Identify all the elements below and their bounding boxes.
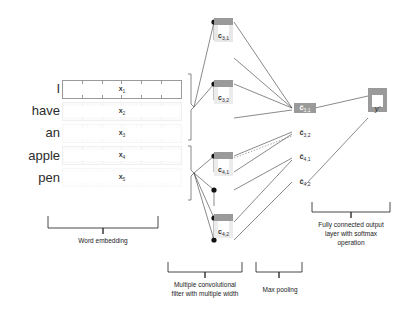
input-word-list: I have an apple pen xyxy=(8,78,60,189)
caption-output-line2: layer with softmax xyxy=(306,229,396,238)
embedding-row-label: x5 xyxy=(62,171,182,183)
input-word: pen xyxy=(8,167,60,189)
cnn-text-architecture-diagram: I have an apple pen x1 x2 x3 xyxy=(0,0,405,318)
conv-feature-block: c4,1 xyxy=(214,152,233,176)
caption-output-layer: Fully connected output layer with softma… xyxy=(306,220,396,247)
conv-feature-block: c4,2 xyxy=(214,214,233,238)
caption-output-line1: Fully connected output xyxy=(306,220,396,229)
conv-block-label: c4,1 xyxy=(210,165,237,175)
conv-block-cap xyxy=(214,80,233,87)
caption-word-embedding: Word embedding xyxy=(58,236,148,245)
conv-block-cap xyxy=(214,18,233,25)
caption-convolution-line1: Multiple convolutional xyxy=(160,280,250,289)
embedding-row-label: x1 xyxy=(62,83,182,95)
pooled-value: ĉ3,1 xyxy=(294,103,316,113)
caption-convolution-line2: filter with multiple width xyxy=(160,289,250,298)
input-word: have xyxy=(8,100,60,122)
pooled-value: ĉ4,2 xyxy=(294,177,316,187)
caption-max-pooling: Max pooling xyxy=(254,285,306,294)
embedding-row-label: x2 xyxy=(62,105,182,117)
embedding-row-label: x3 xyxy=(62,127,182,139)
conv-feature-block: c3,2 xyxy=(214,80,233,104)
caption-convolution: Multiple convolutional filter with multi… xyxy=(160,280,250,298)
conv-block-label: c3,2 xyxy=(210,93,237,103)
input-word: an xyxy=(8,122,60,144)
output-node-label: y' xyxy=(364,104,391,113)
conv-block-cap xyxy=(214,214,233,221)
input-word: apple xyxy=(8,145,60,167)
conv-block-label: c4,2 xyxy=(210,227,237,237)
caption-output-line3: operation xyxy=(306,238,396,247)
embedding-row: x1 xyxy=(62,80,182,99)
input-word: I xyxy=(8,78,60,100)
output-node-cap xyxy=(368,88,387,95)
connection-lines xyxy=(0,0,405,318)
conv-block-cap xyxy=(214,152,233,159)
embedding-row: x5 xyxy=(62,168,182,187)
embedding-row: x2 xyxy=(62,102,182,121)
embedding-row-label: x4 xyxy=(62,149,182,161)
pooled-value: ĉ3,2 xyxy=(294,128,316,138)
embedding-row: x3 xyxy=(62,124,182,143)
conv-feature-block: c3,1 xyxy=(214,18,233,42)
pooled-value: ĉ4,1 xyxy=(294,152,316,162)
output-node: y' xyxy=(368,88,387,112)
embedding-row: x4 xyxy=(62,146,182,165)
conv-block-label: c3,1 xyxy=(210,31,237,41)
